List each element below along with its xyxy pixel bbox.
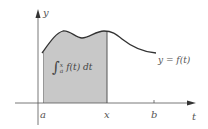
curve-label: y = f(t) xyxy=(158,56,190,65)
tick-label-x: x xyxy=(104,110,110,120)
t-axis-label: t xyxy=(192,112,196,122)
tick-label-a: a xyxy=(40,110,46,120)
y-axis-arrow-icon xyxy=(36,9,41,18)
tick-label-b: b xyxy=(151,110,157,120)
t-axis-arrow-icon xyxy=(187,101,196,106)
y-axis-label: y xyxy=(43,8,49,18)
integral-sign: ∫ xyxy=(52,58,60,76)
integrand: f(t) dt xyxy=(66,62,92,72)
integral-lower-limit: a xyxy=(60,68,64,73)
integral-label: ∫xa f(t) dt xyxy=(52,60,93,75)
